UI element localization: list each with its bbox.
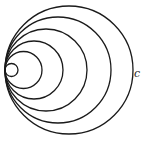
circle-4 [5, 41, 63, 99]
label-c: c [134, 67, 140, 80]
tangent-circles-diagram [0, 0, 144, 155]
circle-3 [5, 29, 87, 111]
circle-6 [5, 64, 18, 77]
circle-1 [5, 6, 133, 134]
circle-5 [5, 52, 42, 89]
circle-2 [5, 17, 111, 123]
